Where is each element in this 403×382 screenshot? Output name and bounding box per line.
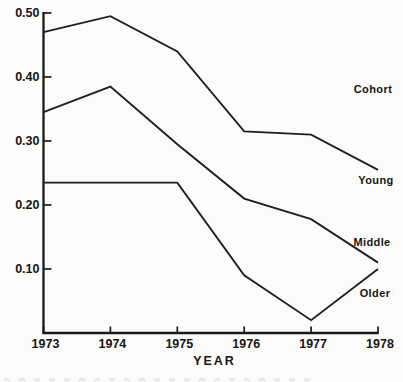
y-tick-label: 0.20 [15, 198, 39, 212]
y-tick-label: 0.10 [15, 262, 39, 276]
x-tick-label: 1976 [232, 337, 260, 351]
x-tick-label: 1974 [98, 337, 126, 351]
series-label-middle: Middle [353, 236, 390, 248]
y-tick-label: 0.40 [15, 70, 39, 84]
legend-header-label: Cohort [354, 83, 392, 95]
x-tick-label: 1975 [165, 337, 193, 351]
chart-line-older [44, 183, 379, 321]
series-label-older: Older [360, 287, 391, 299]
chart-line-middle [44, 87, 379, 263]
x-tick-label: 1973 [32, 337, 60, 351]
x-tick-label: 1978 [366, 337, 394, 351]
y-tick-label: 0.30 [15, 134, 39, 148]
y-tick-label: 0.50 [15, 6, 39, 20]
line-chart: 0.500.400.300.200.1019731974197519761977… [0, 0, 403, 382]
x-tick-label: 1977 [299, 337, 327, 351]
cropped-caption-artifact [4, 378, 316, 381]
figure-container: 0.500.400.300.200.1019731974197519761977… [0, 0, 403, 382]
x-axis-title: YEAR [13, 354, 403, 368]
series-label-young: Young [358, 174, 393, 186]
